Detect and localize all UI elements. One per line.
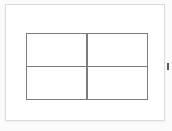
grid-cell-row2-col1[interactable] — [27, 67, 87, 100]
grid-figure[interactable] — [26, 33, 148, 100]
grid-cell-row1-col1[interactable] — [27, 34, 87, 67]
grid-cell-row2-col2[interactable] — [87, 67, 147, 100]
content-panel[interactable] — [5, 4, 165, 121]
grid-horizontal-divider[interactable] — [27, 66, 147, 68]
screen-root — [0, 0, 172, 131]
edge-marker-tick[interactable] — [167, 63, 169, 70]
grid-cell-row1-col2[interactable] — [87, 34, 147, 67]
